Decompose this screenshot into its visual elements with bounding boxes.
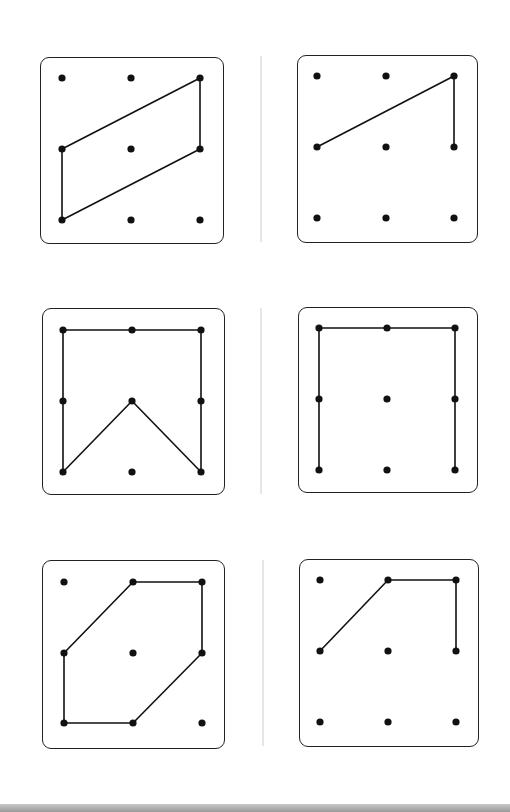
peg-dot: [384, 325, 391, 332]
peg-dot: [130, 579, 137, 586]
column-divider: [260, 56, 262, 242]
peg-dot: [451, 215, 458, 222]
peg-dot: [129, 469, 136, 476]
peg-dot: [314, 215, 321, 222]
peg-dot: [198, 327, 205, 334]
geoboard-figure: [41, 559, 224, 748]
column-divider: [260, 308, 262, 494]
peg-dot: [453, 719, 460, 726]
peg-dot: [451, 73, 458, 80]
peg-dot: [128, 75, 135, 82]
peg-dot: [384, 396, 391, 403]
peg-dot: [197, 217, 204, 224]
open-path: [320, 580, 456, 651]
geoboard-figure: [39, 56, 223, 243]
peg-dot: [60, 398, 67, 405]
peg-dot: [61, 579, 68, 586]
peg-dot: [59, 217, 66, 224]
geoboard-2: [297, 55, 478, 243]
peg-dot: [314, 144, 321, 151]
peg-dot: [383, 215, 390, 222]
peg-dot: [129, 327, 136, 334]
peg-dot: [317, 577, 324, 584]
peg-dot: [384, 467, 391, 474]
column-divider: [262, 560, 264, 746]
peg-dot: [317, 719, 324, 726]
peg-dot: [314, 73, 321, 80]
peg-dot: [385, 648, 392, 655]
peg-dot: [198, 469, 205, 476]
peg-dot: [453, 577, 460, 584]
peg-dot: [317, 648, 324, 655]
peg-dot: [199, 720, 206, 727]
peg-dot: [130, 650, 137, 657]
geoboard-5: [42, 560, 225, 749]
peg-dot: [452, 325, 459, 332]
peg-dot: [199, 650, 206, 657]
peg-dot: [197, 75, 204, 82]
peg-dot: [129, 398, 136, 405]
geoboard-6: [299, 559, 479, 747]
open-path: [317, 76, 454, 147]
peg-dot: [316, 467, 323, 474]
geoboard-figure: [41, 307, 224, 494]
geoboard-figure: [296, 54, 477, 242]
peg-dot: [128, 146, 135, 153]
peg-dot: [316, 396, 323, 403]
peg-dot: [59, 146, 66, 153]
peg-dot: [451, 144, 458, 151]
peg-dot: [59, 75, 66, 82]
geoboard-figure: [297, 306, 477, 492]
peg-dot: [385, 719, 392, 726]
peg-dot: [61, 720, 68, 727]
peg-dot: [128, 217, 135, 224]
peg-dot: [130, 720, 137, 727]
peg-dot: [199, 579, 206, 586]
peg-dot: [198, 398, 205, 405]
peg-dot: [60, 469, 67, 476]
geoboard-3: [42, 308, 225, 495]
peg-dot: [453, 648, 460, 655]
peg-dot: [452, 467, 459, 474]
geoboard-4: [298, 307, 478, 493]
peg-dot: [383, 144, 390, 151]
peg-dot: [61, 650, 68, 657]
peg-dot: [316, 325, 323, 332]
geoboard-figure: [298, 558, 478, 746]
bottom-edge-strip: [0, 804, 510, 812]
peg-dot: [452, 396, 459, 403]
peg-dot: [385, 577, 392, 584]
peg-dot: [197, 146, 204, 153]
peg-dot: [383, 73, 390, 80]
peg-dot: [60, 327, 67, 334]
geoboard-1: [40, 57, 224, 244]
